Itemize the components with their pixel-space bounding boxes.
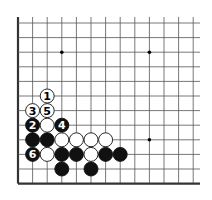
move-number-label: 1: [43, 90, 51, 103]
white-stone: [55, 133, 69, 147]
white-stone: 3: [26, 104, 40, 118]
white-stone: [84, 147, 98, 161]
black-stone: [55, 147, 69, 161]
move-number-label: 3: [29, 105, 37, 118]
star-point: [148, 50, 152, 54]
white-stone: [40, 118, 54, 132]
star-point: [60, 50, 64, 54]
black-stone: [113, 147, 127, 161]
move-number-label: 5: [43, 105, 51, 118]
black-stone: [99, 147, 113, 161]
star-point: [148, 138, 152, 142]
black-stone: 4: [55, 118, 69, 132]
white-stone: [40, 147, 54, 161]
white-stone: [84, 133, 98, 147]
white-stone: [99, 133, 113, 147]
move-number-label: 2: [29, 119, 37, 132]
white-stone: [69, 133, 83, 147]
black-stone: [84, 162, 98, 176]
black-stone: [69, 147, 83, 161]
black-stone: [55, 162, 69, 176]
white-stone: 1: [40, 89, 54, 103]
black-stone: [26, 133, 40, 147]
white-stone: 5: [40, 104, 54, 118]
black-stone: 2: [26, 118, 40, 132]
move-number-label: 6: [29, 148, 37, 161]
black-stone: [40, 133, 54, 147]
go-board: 123456: [0, 0, 212, 200]
move-number-label: 4: [58, 119, 66, 132]
black-stone: 6: [26, 147, 40, 161]
